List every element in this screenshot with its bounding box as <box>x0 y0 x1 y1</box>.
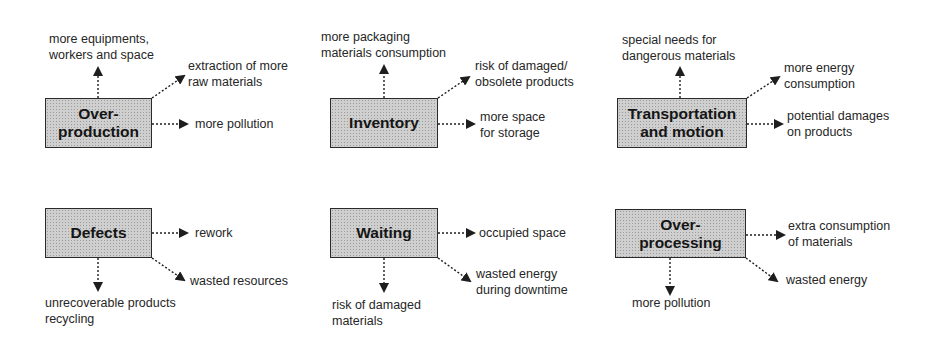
waste-box-transportation: Transportation and motion <box>617 98 747 148</box>
effect-label: more equipments, workers and space <box>49 31 154 63</box>
effect-label: occupied space <box>479 225 566 241</box>
effect-label: more space for storage <box>480 109 545 141</box>
waste-box-waiting: Waiting <box>330 208 438 258</box>
effect-label: more packaging materials consumption <box>321 29 446 61</box>
effect-label: unrecoverable products recycling <box>45 295 176 327</box>
effect-label: special needs for dangerous materials <box>622 32 735 64</box>
arrow-diag-down-icon <box>438 258 470 281</box>
seven-wastes-diagram: Over- production more equipments, worker… <box>0 0 929 339</box>
arrow-diag-down-icon <box>152 258 184 280</box>
effect-label: potential damages on products <box>787 108 889 140</box>
effect-label: more energy consumption <box>784 60 855 92</box>
arrow-diag-up-icon <box>152 76 184 98</box>
effect-label: wasted energy <box>786 272 867 288</box>
effect-label: wasted energy during downtime <box>476 266 568 298</box>
effect-label: risk of damaged materials <box>332 297 421 329</box>
arrow-diag-up-icon <box>747 77 779 98</box>
arrow-diag-up-icon <box>438 77 469 98</box>
effect-label: more pollution <box>632 295 711 311</box>
effect-label: wasted resources <box>190 273 288 289</box>
effect-label: more pollution <box>195 116 274 132</box>
waste-box-inventory: Inventory <box>330 98 438 148</box>
waste-box-defects: Defects <box>45 208 152 258</box>
arrow-diag-down-icon <box>746 258 777 281</box>
waste-box-overprocessing: Over- processing <box>615 209 746 258</box>
waste-box-overproduction: Over- production <box>45 98 152 148</box>
effect-label: extra consumption of materials <box>788 218 890 250</box>
effect-label: risk of damaged/ obsolete products <box>475 58 574 90</box>
effect-label: extraction of more raw materials <box>188 58 288 90</box>
effect-label: rework <box>195 225 233 241</box>
